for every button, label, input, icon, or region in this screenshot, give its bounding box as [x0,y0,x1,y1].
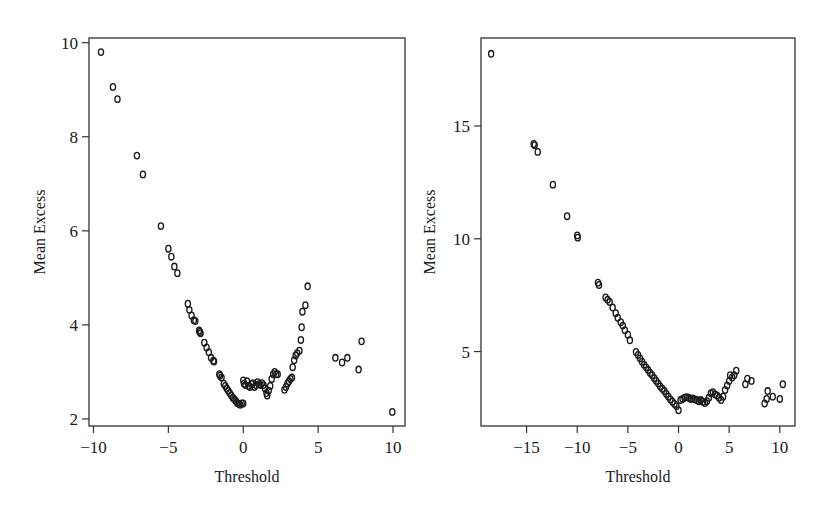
data-point-circle-icon [166,245,171,252]
data-point-circle-icon [175,270,180,277]
y-axis-label: Mean Excess [421,190,438,275]
data-point-circle-icon [290,364,295,371]
right-scatter-plot: −15−10−5051051015ThresholdMean Excess [412,0,824,522]
y-tick-label: 2 [70,410,79,429]
chart-panel-left: −10−50510246810ThresholdMean Excess [0,0,412,522]
data-point-circle-icon [98,49,103,56]
data-point-circle-icon [550,181,555,188]
data-point-circle-icon [158,223,163,230]
x-axis-label: Threshold [606,468,671,485]
data-point-circle-icon [489,50,494,57]
data-point-circle-icon [765,388,770,395]
data-points [489,50,786,413]
data-point-circle-icon [333,355,338,362]
x-tick-label: 0 [674,438,683,457]
y-tick-label: 15 [453,117,470,136]
x-tick-label: 5 [314,438,323,457]
x-tick-label: −5 [619,438,637,457]
y-tick-label: 10 [453,230,470,249]
data-point-circle-icon [303,302,308,309]
y-tick-label: 8 [70,128,79,147]
x-axis-label: Threshold [215,468,280,485]
data-point-circle-icon [134,152,139,159]
data-point-circle-icon [777,396,782,403]
data-point-circle-icon [345,355,350,362]
y-tick-label: 4 [70,316,79,335]
data-point-circle-icon [140,171,145,178]
data-point-circle-icon [305,283,310,290]
data-point-circle-icon [172,263,177,270]
x-tick-label: −10 [564,438,591,457]
data-point-circle-icon [300,308,305,315]
plot-frame [89,38,405,426]
data-points [98,49,394,415]
data-point-circle-icon [390,409,395,416]
data-point-circle-icon [780,381,785,388]
left-scatter-plot: −10−50510246810ThresholdMean Excess [0,0,412,522]
x-tick-label: 10 [385,438,402,457]
data-point-circle-icon [535,149,540,156]
y-tick-label: 5 [462,343,471,362]
data-point-circle-icon [299,324,304,331]
data-point-circle-icon [110,84,115,91]
x-tick-label: 10 [771,438,788,457]
y-tick-label: 10 [61,34,78,53]
data-point-circle-icon [339,359,344,366]
x-tick-label: −5 [159,438,177,457]
chart-panel-right: −15−10−5051051015ThresholdMean Excess [412,0,824,522]
data-point-circle-icon [770,393,775,400]
x-tick-label: −15 [513,438,540,457]
x-tick-label: 0 [239,438,248,457]
data-point-circle-icon [356,366,361,373]
data-point-circle-icon [564,213,569,220]
data-point-circle-icon [115,96,120,103]
plot-frame [481,38,795,426]
x-tick-label: −10 [80,438,107,457]
y-tick-label: 6 [70,222,79,241]
data-point-circle-icon [359,338,364,345]
y-axis-label: Mean Excess [31,190,48,275]
data-point-circle-icon [169,253,174,260]
x-tick-label: 5 [725,438,734,457]
data-point-circle-icon [298,337,303,344]
